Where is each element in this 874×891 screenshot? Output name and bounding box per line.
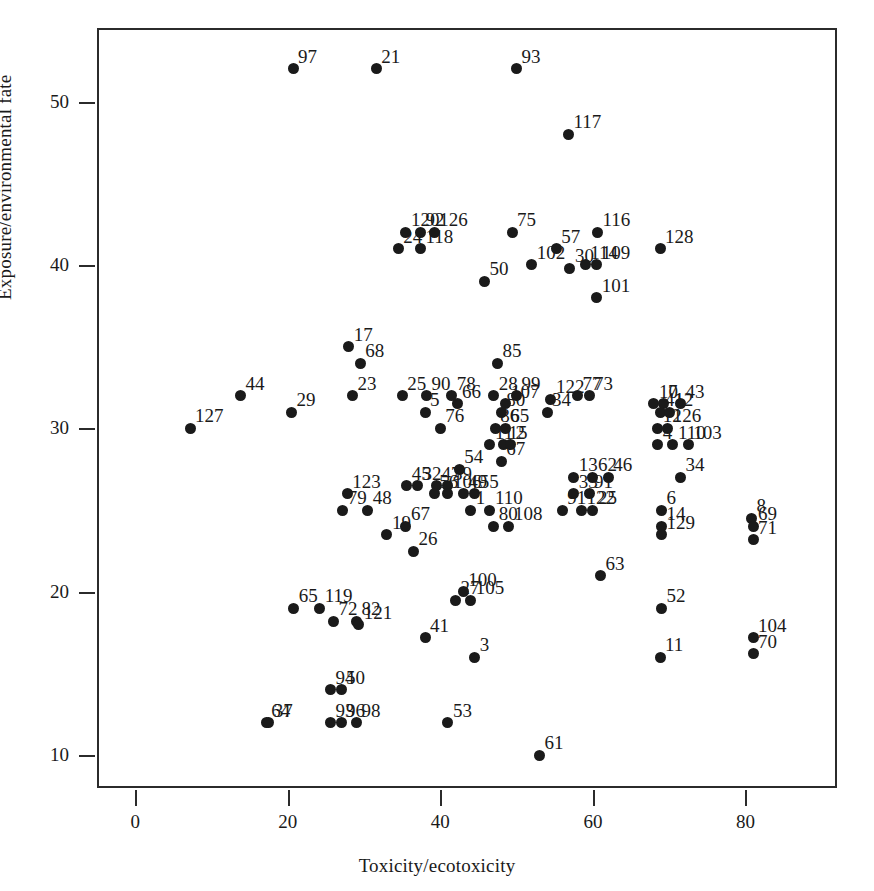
data-point (465, 505, 476, 516)
data-point-label: 85 (503, 341, 522, 360)
data-point (492, 358, 503, 369)
data-point-label: 64 (271, 701, 290, 720)
data-point-label: 68 (365, 341, 384, 360)
data-point-label: 98 (361, 701, 380, 720)
x-tick-label: 0 (110, 812, 160, 831)
data-point-label: 48 (373, 488, 392, 507)
data-point-label: 41 (430, 616, 449, 635)
data-point (683, 439, 694, 450)
data-point (336, 684, 347, 695)
data-point (393, 243, 404, 254)
x-tick-label: 40 (415, 812, 465, 831)
data-point (362, 505, 373, 516)
data-point (328, 616, 339, 627)
y-tick-label: 40 (23, 255, 69, 274)
data-point (534, 750, 545, 761)
data-point-label: 71 (758, 518, 777, 537)
data-point-label: 3 (480, 635, 490, 654)
data-point (420, 632, 431, 643)
data-point-label: 128 (665, 227, 694, 246)
data-point (288, 603, 299, 614)
data-point-label: 91 (567, 488, 586, 507)
data-point (286, 407, 297, 418)
data-point-label: 11 (665, 635, 683, 654)
y-tick-mark (79, 592, 95, 594)
data-point-label: 93 (522, 47, 541, 66)
data-point-label: 1 (476, 488, 486, 507)
data-point (412, 480, 423, 491)
data-point (435, 423, 446, 434)
data-point-label: 70 (758, 632, 777, 651)
data-point-label: 61 (544, 733, 563, 752)
data-point-label: 121 (364, 603, 393, 622)
data-point-label: 67 (411, 504, 430, 523)
data-point (592, 227, 603, 238)
data-point (261, 717, 272, 728)
y-tick-mark (79, 755, 95, 757)
data-point-label: 73 (594, 374, 613, 393)
data-point-label: 34 (552, 390, 571, 409)
data-point-label: 118 (425, 227, 453, 246)
data-point-label: 108 (514, 504, 543, 523)
y-tick-mark (79, 265, 95, 267)
data-point (656, 603, 667, 614)
data-point-label: 75 (517, 210, 536, 229)
data-point (656, 505, 667, 516)
data-point (563, 129, 574, 140)
data-point-label: 44 (245, 374, 264, 393)
y-tick-label: 10 (23, 745, 69, 764)
data-point (587, 505, 598, 516)
data-point (484, 505, 495, 516)
scatter-plot-figure: 1020304050 020406080 9721931171209212675… (0, 0, 874, 891)
x-tick-mark (593, 790, 595, 806)
data-point-label: 97 (298, 47, 317, 66)
data-point (355, 358, 366, 369)
data-point (748, 534, 759, 545)
data-point (337, 505, 348, 516)
x-tick-mark (745, 790, 747, 806)
data-point (542, 407, 553, 418)
data-point-label: 109 (602, 243, 631, 262)
data-point (351, 717, 362, 728)
data-point-label: 25 (598, 488, 617, 507)
data-point-label: 46 (613, 455, 632, 474)
x-tick-mark (135, 790, 137, 806)
data-point (655, 243, 666, 254)
data-point (465, 595, 476, 606)
data-point (496, 456, 507, 467)
data-point (450, 595, 461, 606)
data-point (507, 227, 518, 238)
data-point (408, 546, 419, 557)
data-point (469, 652, 480, 663)
data-point-label: 101 (602, 276, 631, 295)
data-point (371, 63, 382, 74)
data-point (675, 472, 686, 483)
data-point-label: 5 (430, 390, 440, 409)
data-point (748, 632, 759, 643)
data-point-label: 127 (195, 406, 224, 425)
y-tick-label: 20 (23, 582, 69, 601)
data-point-label: 21 (381, 47, 400, 66)
data-point-label: 52 (667, 586, 686, 605)
data-point-label: 105 (476, 578, 505, 597)
data-point-label: 103 (693, 423, 722, 442)
data-point (429, 488, 440, 499)
data-point (397, 390, 408, 401)
data-point (325, 717, 336, 728)
x-tick-mark (288, 790, 290, 806)
data-point (420, 407, 431, 418)
y-tick-label: 50 (23, 92, 69, 111)
x-tick-label: 80 (720, 812, 770, 831)
data-point-label: 67 (506, 439, 525, 458)
data-point (595, 570, 606, 581)
data-point (584, 390, 595, 401)
y-axis-title-text: Exposure/environmental fate (0, 75, 16, 300)
data-point (748, 521, 759, 532)
data-point (576, 505, 587, 516)
x-tick-label: 20 (263, 812, 313, 831)
data-point-label: 129 (667, 513, 696, 532)
data-point-label: 23 (358, 374, 377, 393)
data-point-label: 65 (299, 586, 318, 605)
data-point (458, 488, 469, 499)
data-point-label: 117 (573, 112, 601, 131)
